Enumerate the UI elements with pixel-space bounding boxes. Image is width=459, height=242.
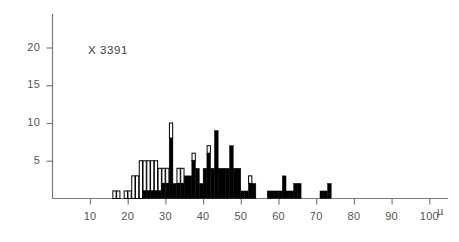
histogram-bar-open [177,168,180,183]
histogram-bar-filled [184,176,188,199]
histogram-bar-filled [229,146,233,199]
histogram-bar-filled [158,191,162,199]
histogram-bar-filled [188,176,192,199]
histogram-bar-filled [150,191,154,199]
histogram-bar-filled [222,168,226,198]
x-axis-unit-label: µ [437,205,443,217]
histogram-bar-filled [169,138,173,198]
histogram-bar-open [113,191,116,199]
histogram-bar-filled [294,183,298,198]
y-axis-tick-label: 20 [12,41,40,53]
histogram-bar-filled [271,191,275,199]
histogram-bar-filled [290,191,294,199]
series-annotation-label: X 3391 [88,44,128,56]
x-axis-tick-label: 60 [263,210,295,222]
histogram-bar-open [151,161,154,191]
histogram-bar-filled [199,183,203,198]
histogram-bar-filled [237,168,241,198]
histogram-bar-open [207,146,210,154]
histogram-bar-filled [241,191,245,199]
histogram-bar-open [154,161,157,191]
histogram-bar-filled [218,168,222,198]
histogram-bar-open [135,176,138,199]
histogram-bar-open [139,161,142,199]
histogram-bar-open [128,191,131,199]
histogram-bar-filled [162,183,166,198]
histogram-bar-filled [324,191,328,199]
histogram-bar-filled [211,168,215,198]
histogram-bar-filled [297,183,301,198]
axes [47,14,449,205]
histogram-bar-filled [320,191,324,199]
histogram-bar-open [143,161,146,191]
histogram-bar-filled [143,191,147,199]
histogram-bar-open [117,191,120,199]
histogram-bar-open [181,168,184,183]
histogram-bar-filled [207,153,211,198]
histogram-bar-open [166,168,169,183]
x-axis-tick-label: 10 [74,210,106,222]
histogram-bar-filled [192,161,196,199]
x-axis-tick-label: 70 [300,210,332,222]
histogram-bar-filled [275,191,279,199]
y-axis-tick-label: 10 [12,116,40,128]
histogram-bar-filled [165,183,169,198]
histogram-bar-filled [282,176,286,199]
y-axis-tick-label: 15 [12,78,40,90]
x-axis-tick-label: 50 [225,210,257,222]
histogram-bar-filled [245,191,249,199]
histogram-bars [113,123,331,199]
histogram-bar-filled [180,183,184,198]
histogram-bar-filled [286,191,290,199]
histogram-bar-filled [177,183,181,198]
histogram-bar-filled [226,168,230,198]
histogram-bar-filled [203,168,207,198]
histogram-bar-open [158,168,161,191]
x-axis-tick-label: 80 [338,210,370,222]
histogram-bar-filled [233,168,237,198]
histogram-bar-filled [147,191,151,199]
histogram-bar-open [147,161,150,191]
histogram-bar-open [162,168,165,183]
histogram-bar-filled [267,191,271,199]
x-axis-tick-label: 40 [187,210,219,222]
histogram-bar-filled [214,131,218,199]
histogram-bar-open [192,153,195,161]
histogram-bar-filled [196,168,200,198]
y-axis-tick-label: 5 [12,154,40,166]
histogram-bar-filled [154,191,158,199]
histogram-figure: 5101520 102030405060708090100 X 3391 µ [0,0,459,242]
y-axis-ticks [47,48,53,161]
histogram-bar-filled [279,191,283,199]
histogram-bar-filled [248,183,252,198]
histogram-plot [0,0,459,242]
x-axis-tick-label: 20 [112,210,144,222]
x-axis-tick-label: 90 [376,210,408,222]
histogram-bar-filled [252,183,256,198]
histogram-bar-open [249,176,252,184]
x-axis-tick-label: 30 [149,210,181,222]
histogram-bar-filled [173,183,177,198]
histogram-bar-open [169,123,172,138]
histogram-bar-open [124,191,127,199]
x-axis-ticks [91,199,430,205]
histogram-bar-open [132,176,135,199]
histogram-bar-filled [328,183,332,198]
